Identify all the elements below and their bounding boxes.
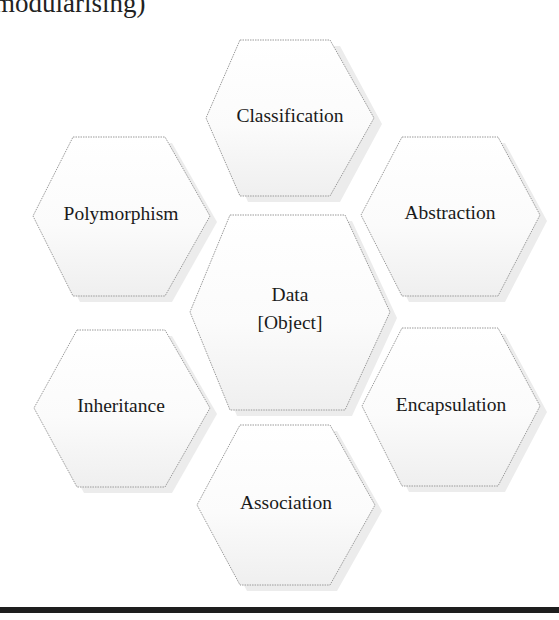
label-inheritance: Inheritance — [77, 395, 165, 416]
bottom-rule-divider — [0, 607, 559, 613]
hexagon-center-data-object: Data [Object] — [190, 215, 397, 416]
label-polymorphism: Polymorphism — [64, 203, 179, 224]
label-center-data: Data — [272, 284, 309, 305]
label-encapsulation: Encapsulation — [396, 394, 507, 415]
hexagon-classification: Classification — [206, 40, 382, 202]
hexagon-polymorphism: Polymorphism — [33, 137, 217, 302]
oop-concepts-diagram: Classification Polymorphism Abstraction … — [0, 0, 559, 620]
hexagon-encapsulation: Encapsulation — [362, 328, 547, 492]
hexagon-inheritance: Inheritance — [34, 330, 217, 493]
hexagon-association: Association — [197, 425, 382, 591]
label-association: Association — [240, 492, 332, 513]
hexagon-abstraction: Abstraction — [361, 137, 547, 302]
label-center-object: [Object] — [258, 312, 323, 333]
label-classification: Classification — [236, 105, 343, 126]
label-abstraction: Abstraction — [405, 202, 496, 223]
